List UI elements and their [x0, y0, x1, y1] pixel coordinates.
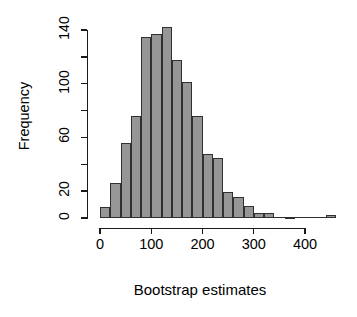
histogram-figure: 02060100140 0100200300400 Frequency Boot… [0, 0, 357, 317]
histogram-bar [315, 217, 325, 218]
y-axis-tick [81, 83, 87, 84]
y-axis-tick-label: 140 [56, 8, 72, 48]
histogram-bar [203, 154, 213, 218]
histogram-bar [264, 213, 274, 218]
x-axis-tick-label: 100 [126, 236, 176, 252]
histogram-bar [285, 217, 295, 219]
histogram-bar [274, 217, 284, 218]
histogram-bar [305, 217, 315, 218]
x-axis-tick [253, 228, 254, 234]
x-axis-title: Bootstrap estimates [70, 281, 330, 298]
y-axis-tick [81, 137, 87, 138]
histogram-bar [151, 34, 161, 218]
histogram-bar [110, 183, 120, 218]
y-axis-tick [81, 29, 87, 30]
histogram-bar [295, 217, 305, 218]
x-axis-tick [202, 228, 203, 234]
y-axis-tick-label: 60 [56, 115, 72, 155]
y-axis-line [87, 30, 88, 219]
histogram-bar [121, 143, 131, 218]
histogram-bar [100, 207, 110, 218]
x-axis-tick-label: 400 [280, 236, 330, 252]
histogram-bar [172, 60, 182, 218]
x-axis-tick-label: 300 [229, 236, 279, 252]
histogram-bar [254, 213, 264, 218]
y-axis-tick-label: 20 [56, 169, 72, 209]
histogram-bar [192, 116, 202, 218]
x-axis-tick [99, 228, 100, 234]
y-axis-tick [81, 190, 87, 191]
y-axis-tick-label: 100 [56, 62, 72, 102]
y-axis-tick [81, 217, 87, 218]
histogram-bar [141, 37, 151, 218]
histogram-bar [326, 215, 336, 218]
x-axis-tick-label: 0 [75, 236, 125, 252]
y-axis-title: Frequency [16, 56, 32, 176]
y-axis-tick [81, 56, 87, 57]
x-axis-tick-label: 200 [178, 236, 228, 252]
histogram-bar [182, 82, 192, 218]
histogram-bar [244, 206, 254, 218]
x-axis-tick [151, 228, 152, 234]
y-axis-tick [81, 110, 87, 111]
histogram-bar [223, 192, 233, 218]
plot-area: 02060100140 0100200300400 [0, 0, 357, 317]
y-axis-tick [81, 164, 87, 165]
histogram-bar [131, 116, 141, 218]
histogram-bar [233, 197, 243, 218]
x-axis-tick [304, 228, 305, 234]
histogram-bar [162, 27, 172, 218]
histogram-bar [213, 158, 223, 218]
